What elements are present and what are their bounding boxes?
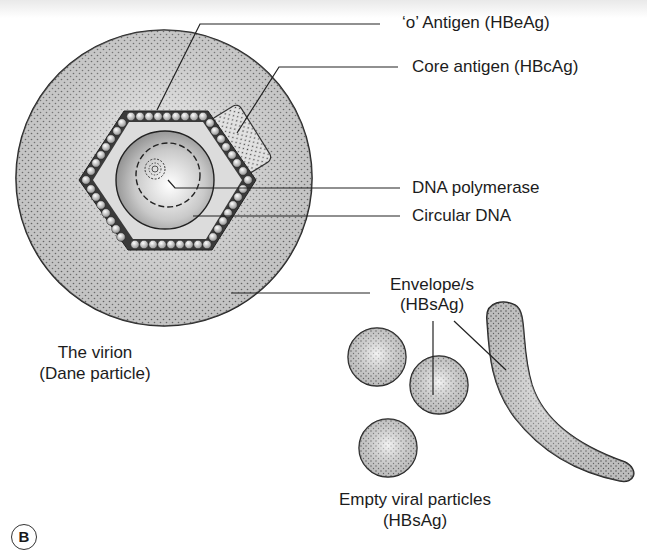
label-virion-line1: The virion — [20, 343, 170, 363]
label-e-antigen: ‘o’ Antigen (HBeAg) — [402, 13, 550, 33]
panel-tag: B — [11, 524, 37, 550]
label-envelope-line1: Envelope/s — [372, 275, 492, 295]
label-empty-line1: Empty viral particles — [330, 490, 500, 510]
label-circular-dna: Circular DNA — [412, 206, 511, 226]
label-virion-line2: (Dane particle) — [20, 364, 170, 384]
label-empty-line2: (HBsAg) — [330, 511, 500, 531]
label-core-antigen: Core antigen (HBcAg) — [412, 57, 578, 77]
inner-core-sphere — [116, 131, 214, 229]
label-envelope-line2: (HBsAg) — [372, 295, 492, 315]
filamentous-particle — [487, 302, 634, 481]
hbv-diagram — [0, 0, 647, 552]
empty-spheres — [348, 328, 468, 477]
label-dna-polymerase: DNA polymerase — [412, 178, 540, 198]
